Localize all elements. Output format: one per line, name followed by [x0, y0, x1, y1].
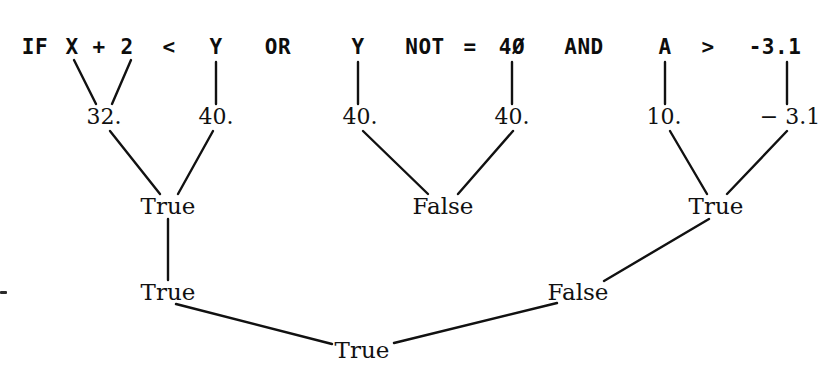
expression-token: 2: [120, 37, 133, 58]
operand-value-node: 32.: [87, 106, 122, 128]
expression-token: AND: [564, 37, 603, 58]
operand-value-node: 40.: [199, 106, 234, 128]
tree-edge: [727, 131, 787, 194]
result-node: True: [335, 339, 390, 362]
operand-value-node: 40.: [495, 106, 530, 128]
expression-token: Y: [351, 37, 364, 58]
expression-token: <: [162, 37, 175, 58]
expression-token: =: [463, 37, 476, 58]
operand-value-node: 10.: [647, 106, 682, 128]
result-node: True: [141, 281, 196, 304]
tree-edge: [363, 131, 428, 194]
tree-edge: [110, 131, 160, 194]
expression-token: X: [65, 37, 78, 58]
expression-token: OR: [265, 37, 291, 58]
result-node: True: [141, 195, 196, 218]
expression-token: NOT: [405, 37, 444, 58]
result-node: True: [689, 195, 744, 218]
tree-edge: [604, 219, 709, 281]
operand-value-node: 40.: [343, 106, 378, 128]
tree-edge: [670, 131, 707, 194]
result-node: False: [548, 281, 609, 304]
expression-token: A: [658, 37, 671, 58]
expression-token: Y: [209, 37, 222, 58]
tree-edge: [394, 303, 557, 343]
tree-edge: [176, 304, 332, 344]
tree-edge: [74, 60, 96, 104]
expression-token: IF: [22, 37, 48, 58]
operand-value-node: − 3.1: [760, 106, 820, 128]
expression-token: -3.1: [749, 37, 802, 58]
result-node: False: [413, 195, 474, 218]
expression-token: 4Ø: [499, 37, 525, 58]
tree-edge: [112, 60, 131, 104]
expression-token: >: [701, 37, 714, 58]
expression-tree-diagram: IFX+2<YORYNOT=4ØANDA>-3.1 32.40.40.40.10…: [0, 0, 828, 372]
tree-edge: [178, 131, 213, 194]
tree-edge: [458, 131, 513, 194]
stray-mark: [0, 291, 7, 294]
expression-token: +: [92, 37, 105, 58]
